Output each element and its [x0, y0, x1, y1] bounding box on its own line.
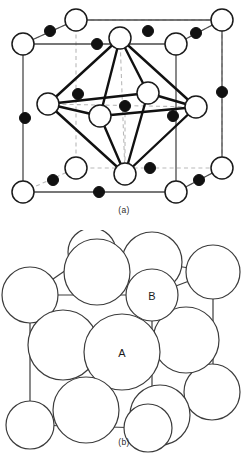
panel-a-canvas	[0, 0, 248, 230]
caption-panel-b: (b)	[0, 437, 248, 447]
label-ion-b: B	[148, 290, 155, 302]
panel-b-canvas: A B	[0, 230, 248, 461]
panel-b-space-filling: A B	[0, 230, 248, 461]
caption-panel-a: (a)	[0, 205, 248, 215]
label-ion-a: A	[118, 347, 126, 359]
crystal-structure-figure: (a)	[0, 0, 248, 461]
panel-a-ball-and-stick	[0, 0, 248, 230]
